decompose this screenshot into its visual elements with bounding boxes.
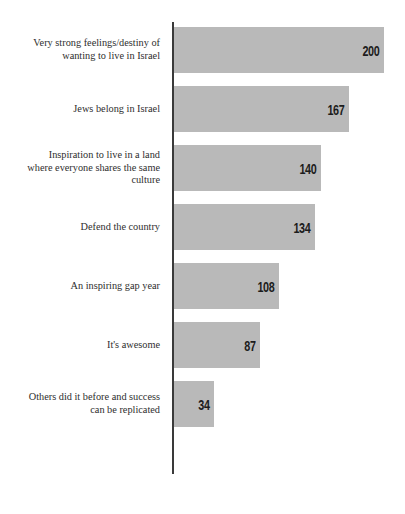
bar[interactable]: 167: [174, 86, 349, 132]
bar[interactable]: 140: [174, 145, 321, 191]
category-label-line: Others did it before and success: [0, 391, 160, 404]
category-label-line: where everyone shares the same: [0, 162, 160, 175]
category-label-line: An inspiring gap year: [0, 280, 160, 293]
bar-value-label: 134: [293, 219, 310, 236]
category-label: Others did it before and success can be …: [0, 391, 166, 416]
bar-track: 87: [174, 322, 405, 368]
bar-track: 108: [174, 263, 405, 309]
bar-rows-container: Very strong feelings/destiny of wanting …: [0, 27, 405, 440]
bar-track: 140: [174, 145, 405, 191]
category-label-line: wanting to live in Israel: [0, 50, 160, 63]
category-label-line: can be replicated: [0, 404, 160, 417]
category-label-line: Inspiration to live in a land: [0, 149, 160, 162]
chart-row: Inspiration to live in a land where ever…: [0, 145, 405, 191]
chart-row: It's awesome 87: [0, 322, 405, 368]
category-label-line: Very strong feelings/destiny of: [0, 37, 160, 50]
bar-value-label: 108: [257, 278, 274, 295]
bar-value-label: 34: [198, 396, 209, 413]
category-label: Inspiration to live in a land where ever…: [0, 149, 166, 187]
bar-value-label: 140: [299, 160, 316, 177]
bar-track: 134: [174, 204, 405, 250]
bar[interactable]: 87: [174, 322, 260, 368]
chart-row: Jews belong in Israel 167: [0, 86, 405, 132]
category-label-line: It's awesome: [0, 339, 160, 352]
chart-row: An inspiring gap year 108: [0, 263, 405, 309]
bar-chart: Very strong feelings/destiny of wanting …: [0, 0, 405, 514]
category-label-line: culture: [0, 174, 160, 187]
chart-row: Defend the country 134: [0, 204, 405, 250]
bar[interactable]: 134: [174, 204, 315, 250]
category-label-line: Defend the country: [0, 221, 160, 234]
chart-row: Others did it before and success can be …: [0, 381, 405, 427]
bar-track: 167: [174, 86, 405, 132]
bar-value-label: 87: [244, 337, 255, 354]
category-label: Very strong feelings/destiny of wanting …: [0, 37, 166, 62]
category-label: Jews belong in Israel: [0, 103, 166, 116]
bar-track: 200: [174, 27, 405, 73]
bar-value-label: 167: [327, 101, 344, 118]
category-label-line: Jews belong in Israel: [0, 103, 160, 116]
bar[interactable]: 108: [174, 263, 279, 309]
category-label: An inspiring gap year: [0, 280, 166, 293]
bar[interactable]: 34: [174, 381, 214, 427]
category-label: It's awesome: [0, 339, 166, 352]
chart-row: Very strong feelings/destiny of wanting …: [0, 27, 405, 73]
bar-track: 34: [174, 381, 405, 427]
category-label: Defend the country: [0, 221, 166, 234]
bar[interactable]: 200: [174, 27, 384, 73]
bar-value-label: 200: [362, 42, 379, 59]
